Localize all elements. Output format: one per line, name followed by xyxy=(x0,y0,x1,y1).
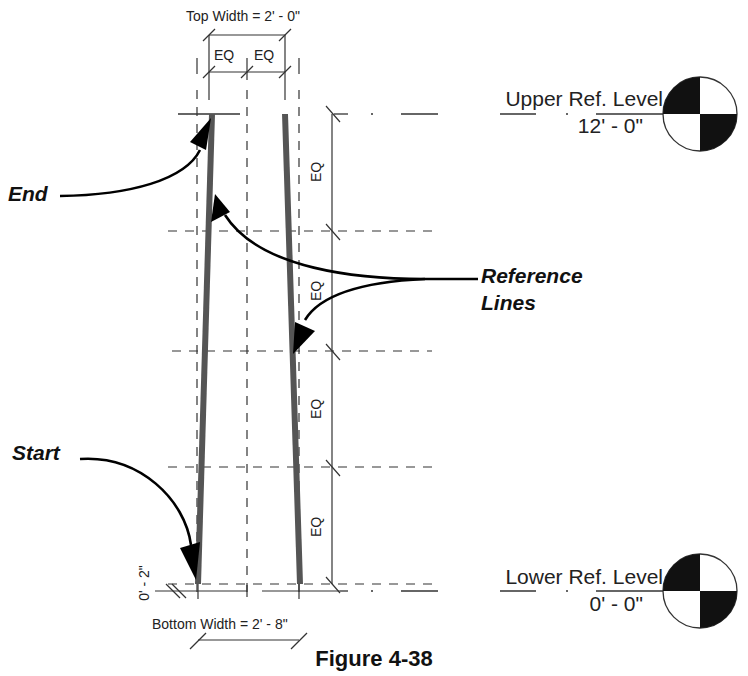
callout-reference-lines: Reference Lines xyxy=(211,194,583,354)
upper-ref-level: Upper Ref. Level 12' - 0" xyxy=(178,77,737,151)
end-label: End xyxy=(8,182,49,205)
wall-lines xyxy=(198,114,300,584)
bottom-width-label: Bottom Width = 2' - 8" xyxy=(152,616,288,632)
top-eq-left: EQ xyxy=(214,47,234,63)
arrow-icon xyxy=(190,118,211,150)
lower-level-name: Lower Ref. Level xyxy=(505,565,663,588)
eq-segment-4: EQ xyxy=(308,517,324,537)
reference-label-line1: Reference xyxy=(481,264,583,287)
callout-start: Start xyxy=(12,441,200,580)
reference-label-line2: Lines xyxy=(481,291,536,314)
upper-level-name: Upper Ref. Level xyxy=(505,87,663,110)
eq-segment-3: EQ xyxy=(308,399,324,419)
callout-end: End xyxy=(8,118,211,205)
vertical-eq-dimension: EQ EQ EQ EQ xyxy=(308,106,340,593)
wall-profile-figure: Top Width = 2' - 0" EQ EQ Up xyxy=(0,0,748,676)
level-head-icon xyxy=(663,77,737,151)
level-head-icon xyxy=(663,554,737,628)
eq-segment-1: EQ xyxy=(308,162,324,182)
eq-segment-2: EQ xyxy=(308,281,324,301)
start-label: Start xyxy=(12,441,61,464)
top-eq-right: EQ xyxy=(254,47,274,63)
lower-ref-level: Lower Ref. Level 0' - 0" xyxy=(340,554,737,628)
bottom-offset-label: 0' - 2" xyxy=(136,565,152,601)
wall-line-left xyxy=(198,114,212,584)
arrow-icon xyxy=(293,322,315,354)
top-width-dimension: Top Width = 2' - 0" EQ EQ xyxy=(186,8,300,100)
top-width-label: Top Width = 2' - 0" xyxy=(186,8,300,24)
lower-level-elevation: 0' - 0" xyxy=(590,592,643,615)
figure-caption: Figure 4-38 xyxy=(315,646,432,671)
bottom-width-dimension: 0' - 2" Bottom Width = 2' - 8" xyxy=(136,565,340,649)
upper-level-elevation: 12' - 0" xyxy=(578,114,643,137)
